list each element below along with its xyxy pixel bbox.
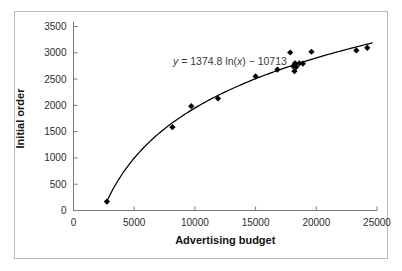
- y-tick-label: 2000: [44, 100, 67, 111]
- y-tick-label: 3500: [44, 21, 67, 32]
- axes-group: [74, 22, 378, 211]
- scatter-marker: [353, 47, 359, 53]
- scatter-marker: [364, 45, 370, 51]
- trendline-equation-label: y = 1374.8 ln(x) − 10713: [172, 55, 287, 67]
- x-axis-title: Advertising budget: [175, 234, 276, 246]
- y-axis-tick-labels: 0500100015002000250030003500: [44, 21, 67, 216]
- y-axis-title: Initial order: [14, 88, 26, 149]
- x-tick-label: 5000: [123, 217, 146, 228]
- scatter-markers-group: [104, 45, 371, 205]
- scatter-marker: [104, 198, 110, 204]
- x-tick-label: 0: [71, 217, 77, 228]
- x-axis-tick-labels: 0500010000150002000025000: [71, 217, 392, 228]
- x-tick-label: 20000: [302, 217, 330, 228]
- y-tick-label: 1000: [44, 152, 67, 163]
- x-tick-label: 10000: [181, 217, 209, 228]
- chart-canvas: 0500010000150002000025000 05001000150020…: [0, 0, 402, 271]
- figure-container: 0500010000150002000025000 05001000150020…: [0, 0, 402, 271]
- x-tick-label: 15000: [242, 217, 270, 228]
- logarithmic-trendline: [106, 43, 372, 203]
- scatter-marker: [287, 49, 293, 55]
- y-tick-label: 0: [61, 205, 67, 216]
- x-tick-label: 25000: [363, 217, 391, 228]
- scatter-marker: [308, 49, 314, 55]
- y-tick-label: 2500: [44, 74, 67, 85]
- y-tick-label: 500: [50, 179, 67, 190]
- y-tick-label: 3000: [44, 47, 67, 58]
- scatter-marker: [253, 73, 259, 79]
- y-tick-label: 1500: [44, 126, 67, 137]
